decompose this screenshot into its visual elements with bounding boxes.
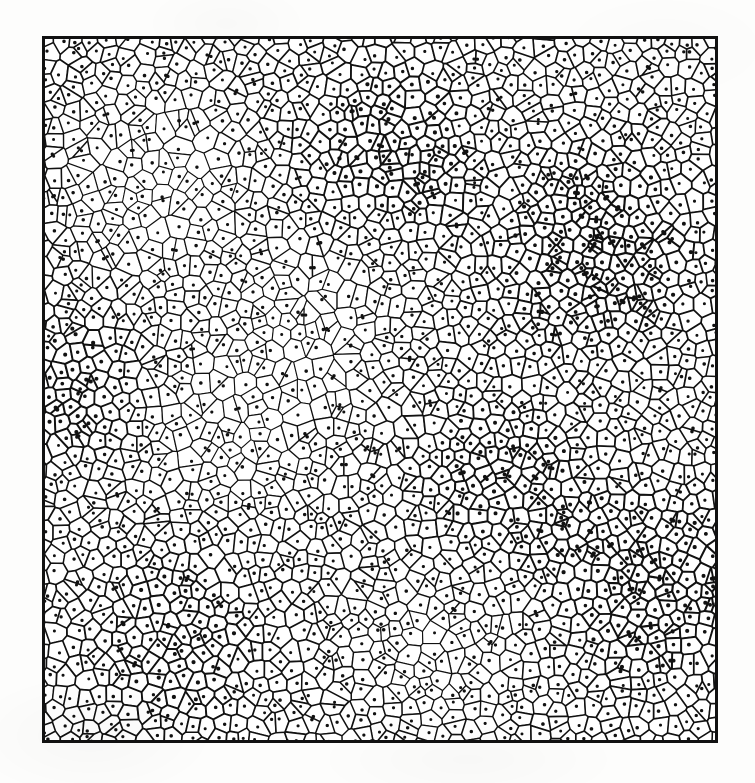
figure-caption [0, 16, 1, 17]
page-title [0, 21, 1, 22]
figure-description: Planar Voronoi (Dirichlet) tessellation … [0, 16, 1, 17]
voronoi-tessellation-canvas [42, 36, 718, 743]
figure-page: Planar Voronoi (Dirichlet) tessellation … [0, 0, 755, 783]
